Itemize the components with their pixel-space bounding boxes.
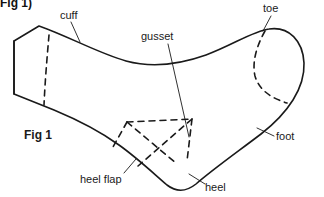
sock-figure-diagram: Fig 1) cuff gusset toe foot heel flap he… <box>0 0 324 197</box>
part-label-toe: toe <box>263 3 278 14</box>
leader-line-gusset <box>168 44 189 137</box>
part-label-foot: foot <box>276 131 294 142</box>
part-label-heel-flap: heel flap <box>80 174 122 185</box>
heel-dashed-diagonal-left <box>138 119 192 166</box>
heel-dashed-left <box>113 122 127 147</box>
heel-dashed-top <box>127 119 192 122</box>
cuff-dashed-line <box>44 35 49 105</box>
toe-dashed-line <box>254 31 287 103</box>
heel-dashed-right <box>187 119 192 161</box>
part-label-heel: heel <box>205 182 226 193</box>
part-label-gusset: gusset <box>141 31 173 42</box>
sock-outline-path <box>14 26 304 190</box>
part-label-cuff: cuff <box>60 10 78 21</box>
figure-top-title: Fig 1) <box>0 0 32 9</box>
figure-caption: Fig 1 <box>24 129 52 141</box>
leader-line-heel-flap <box>124 159 136 173</box>
